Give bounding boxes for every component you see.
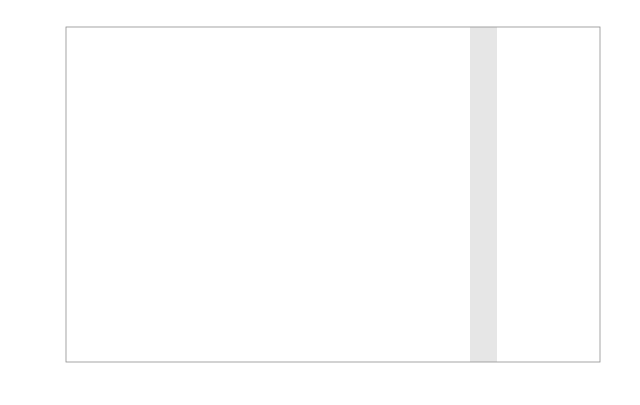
- nomogram-chart-page: [0, 0, 640, 405]
- tick-marks: [0, 0, 640, 405]
